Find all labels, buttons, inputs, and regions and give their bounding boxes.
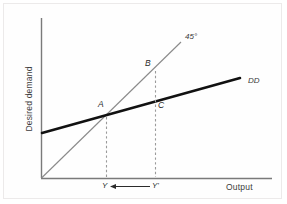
tick-label-y-prime: Y' xyxy=(152,181,159,190)
tick-label-y: Y xyxy=(102,181,107,190)
y-axis-title: Desired demand xyxy=(24,44,34,154)
adjustment-arrow-icon xyxy=(110,184,150,189)
x-axis-title: Output xyxy=(226,182,253,192)
line-45-degree xyxy=(42,42,182,178)
line-dd xyxy=(42,78,240,133)
plot-area xyxy=(0,0,287,204)
point-label-a: A xyxy=(98,99,104,109)
point-label-b: B xyxy=(145,58,151,68)
point-label-c: C xyxy=(158,100,164,110)
chart-figure: Desired demand Output 45° DD A B C Y Y' xyxy=(0,0,287,204)
label-45-degree-line: 45° xyxy=(185,32,197,41)
label-dd-line: DD xyxy=(248,76,260,85)
